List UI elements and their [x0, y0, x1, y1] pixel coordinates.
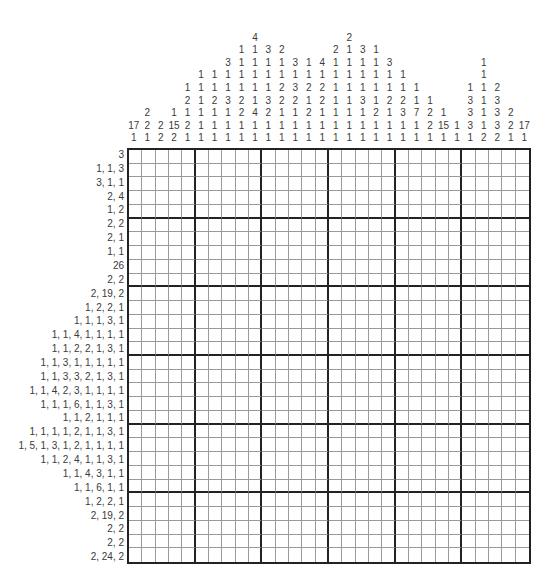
grid-cell[interactable] [356, 397, 369, 411]
grid-cell[interactable] [409, 493, 422, 507]
grid-cell[interactable] [369, 480, 382, 494]
grid-cell[interactable] [436, 205, 449, 219]
grid-cell[interactable] [262, 480, 275, 494]
grid-cell[interactable] [329, 315, 342, 329]
grid-cell[interactable] [196, 548, 209, 562]
grid-cell[interactable] [182, 535, 195, 549]
grid-cell[interactable] [436, 274, 449, 288]
grid-cell[interactable] [302, 191, 315, 205]
grid-cell[interactable] [249, 164, 262, 178]
grid-cell[interactable] [369, 356, 382, 370]
grid-cell[interactable] [422, 232, 435, 246]
grid-cell[interactable] [516, 150, 529, 164]
grid-cell[interactable] [476, 177, 489, 191]
grid-cell[interactable] [449, 191, 462, 205]
grid-cell[interactable] [209, 329, 222, 343]
grid-cell[interactable] [209, 521, 222, 535]
grid-cell[interactable] [382, 301, 395, 315]
grid-cell[interactable] [436, 397, 449, 411]
grid-cell[interactable] [209, 535, 222, 549]
grid-cell[interactable] [342, 287, 355, 301]
grid-cell[interactable] [169, 507, 182, 521]
grid-cell[interactable] [276, 425, 289, 439]
grid-cell[interactable] [422, 383, 435, 397]
grid-cell[interactable] [422, 425, 435, 439]
grid-cell[interactable] [236, 315, 249, 329]
grid-cell[interactable] [249, 356, 262, 370]
grid-cell[interactable] [156, 480, 169, 494]
grid-cell[interactable] [396, 535, 409, 549]
grid-cell[interactable] [356, 466, 369, 480]
grid-cell[interactable] [382, 507, 395, 521]
grid-cell[interactable] [382, 535, 395, 549]
grid-cell[interactable] [462, 315, 475, 329]
grid-cell[interactable] [409, 356, 422, 370]
grid-cell[interactable] [476, 425, 489, 439]
grid-cell[interactable] [262, 150, 275, 164]
grid-cell[interactable] [449, 493, 462, 507]
grid-cell[interactable] [449, 219, 462, 233]
grid-cell[interactable] [316, 177, 329, 191]
grid-cell[interactable] [489, 260, 502, 274]
grid-cell[interactable] [369, 521, 382, 535]
grid-cell[interactable] [222, 480, 235, 494]
grid-cell[interactable] [449, 425, 462, 439]
grid-cell[interactable] [516, 521, 529, 535]
grid-cell[interactable] [142, 452, 155, 466]
grid-cell[interactable] [422, 480, 435, 494]
grid-cell[interactable] [236, 452, 249, 466]
grid-cell[interactable] [289, 342, 302, 356]
grid-cell[interactable] [169, 301, 182, 315]
grid-cell[interactable] [222, 329, 235, 343]
grid-cell[interactable] [356, 411, 369, 425]
grid-cell[interactable] [489, 480, 502, 494]
grid-cell[interactable] [302, 342, 315, 356]
grid-cell[interactable] [222, 315, 235, 329]
grid-cell[interactable] [249, 535, 262, 549]
grid-cell[interactable] [396, 219, 409, 233]
grid-cell[interactable] [196, 301, 209, 315]
grid-cell[interactable] [262, 507, 275, 521]
grid-cell[interactable] [409, 466, 422, 480]
grid-cell[interactable] [369, 301, 382, 315]
grid-cell[interactable] [316, 425, 329, 439]
grid-cell[interactable] [409, 315, 422, 329]
grid-cell[interactable] [356, 191, 369, 205]
grid-cell[interactable] [236, 493, 249, 507]
grid-cell[interactable] [182, 466, 195, 480]
grid-cell[interactable] [302, 301, 315, 315]
grid-cell[interactable] [316, 260, 329, 274]
grid-cell[interactable] [489, 164, 502, 178]
grid-cell[interactable] [462, 466, 475, 480]
grid-cell[interactable] [182, 301, 195, 315]
grid-cell[interactable] [342, 521, 355, 535]
grid-cell[interactable] [156, 356, 169, 370]
grid-cell[interactable] [182, 150, 195, 164]
grid-cell[interactable] [329, 480, 342, 494]
grid-cell[interactable] [289, 356, 302, 370]
grid-cell[interactable] [142, 177, 155, 191]
grid-cell[interactable] [142, 548, 155, 562]
grid-cell[interactable] [489, 493, 502, 507]
grid-cell[interactable] [169, 535, 182, 549]
grid-cell[interactable] [169, 480, 182, 494]
grid-cell[interactable] [476, 246, 489, 260]
grid-cell[interactable] [316, 480, 329, 494]
grid-cell[interactable] [129, 315, 142, 329]
grid-cell[interactable] [222, 342, 235, 356]
grid-cell[interactable] [196, 493, 209, 507]
grid-cell[interactable] [502, 315, 515, 329]
grid-cell[interactable] [516, 466, 529, 480]
grid-cell[interactable] [396, 521, 409, 535]
grid-cell[interactable] [329, 246, 342, 260]
grid-cell[interactable] [196, 507, 209, 521]
grid-cell[interactable] [396, 301, 409, 315]
grid-cell[interactable] [222, 164, 235, 178]
grid-cell[interactable] [142, 205, 155, 219]
grid-cell[interactable] [302, 287, 315, 301]
grid-cell[interactable] [276, 232, 289, 246]
grid-cell[interactable] [342, 232, 355, 246]
grid-cell[interactable] [329, 493, 342, 507]
grid-cell[interactable] [356, 370, 369, 384]
grid-cell[interactable] [502, 397, 515, 411]
